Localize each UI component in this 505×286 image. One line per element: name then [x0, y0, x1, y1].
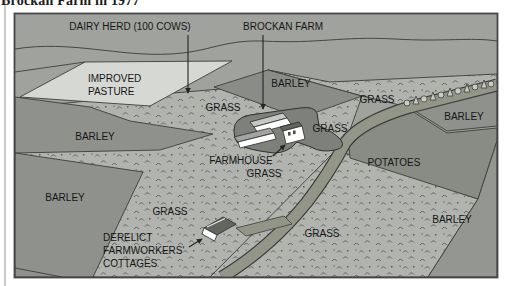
label-derelict-cottages: COTTAGES: [103, 258, 158, 269]
label-barley: BARLEY: [444, 111, 484, 122]
label-improved-pasture: IMPROVED: [88, 73, 141, 84]
label-barley: BARLEY: [271, 78, 311, 89]
label-barley: BARLEY: [432, 214, 472, 225]
label-grass: GRASS: [304, 228, 339, 239]
label-grass: GRASS: [359, 94, 394, 105]
label-grass: GRASS: [152, 206, 187, 217]
label-barley: BARLEY: [45, 192, 85, 203]
label-potatoes: POTATOES: [368, 157, 421, 168]
farm-map: DAIRY HERD (100 COWS) BROCKAN FARM IMPRO…: [0, 0, 505, 286]
label-improved-pasture: PASTURE: [88, 86, 135, 97]
label-dairy-herd: DAIRY HERD (100 COWS): [69, 21, 190, 32]
figure-page: Brockan Farm in 1977: [0, 0, 505, 286]
label-farmhouse: FARMHOUSE: [209, 155, 273, 166]
farmhouse-window: [293, 131, 296, 135]
label-grass: GRASS: [312, 123, 347, 134]
label-derelict-cottages: FARMWORKERS': [103, 245, 184, 256]
label-grass: GRASS: [246, 168, 281, 179]
label-brockan-farm: BROCKAN FARM: [243, 21, 323, 32]
label-derelict-cottages: DERELICT: [103, 232, 152, 243]
label-barley: BARLEY: [75, 131, 115, 142]
label-grass: GRASS: [205, 102, 240, 113]
farmhouse-window: [288, 132, 291, 136]
